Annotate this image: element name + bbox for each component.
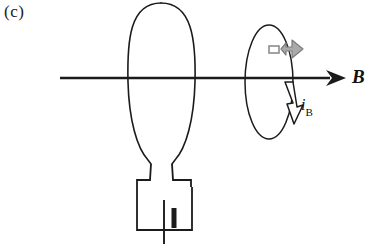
panel-label: (c) [4, 2, 24, 22]
current-label: iB [301, 96, 313, 116]
coil-lead-right [172, 164, 191, 187]
coil-lead-left [137, 164, 151, 187]
figure-panel-c: (c) B iB [0, 0, 377, 244]
large-coil-left-arc [128, 3, 161, 164]
magnetic-field-label: B [352, 66, 365, 88]
dipole-arrow-tail-box [269, 46, 279, 53]
physics-diagram-canvas [0, 0, 377, 244]
dipole-moment-arrow [281, 40, 303, 58]
large-coil-right-arc [161, 3, 195, 164]
current-subscript: B [305, 106, 312, 118]
